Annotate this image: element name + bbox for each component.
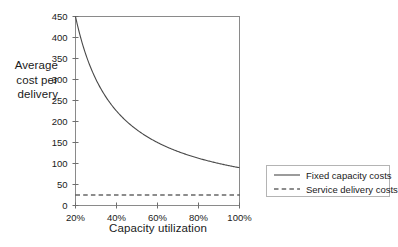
legend-item-fixed-capacity-costs: Fixed capacity costs [267, 168, 391, 182]
series-line-fixed-capacity-costs [76, 17, 240, 168]
plot-frame [76, 17, 240, 206]
legend-swatch-solid-line-icon [273, 168, 301, 182]
legend-swatch-dashed-line-icon [273, 182, 301, 196]
legend-label-service-delivery-costs: Service delivery costs [306, 184, 398, 195]
legend-label-fixed-capacity-costs: Fixed capacity costs [306, 170, 392, 181]
chart-legend: Fixed capacity costs Service delivery co… [266, 165, 390, 197]
legend-item-service-delivery-costs: Service delivery costs [267, 182, 391, 196]
x-axis-title: Capacity utilization [75, 222, 241, 235]
